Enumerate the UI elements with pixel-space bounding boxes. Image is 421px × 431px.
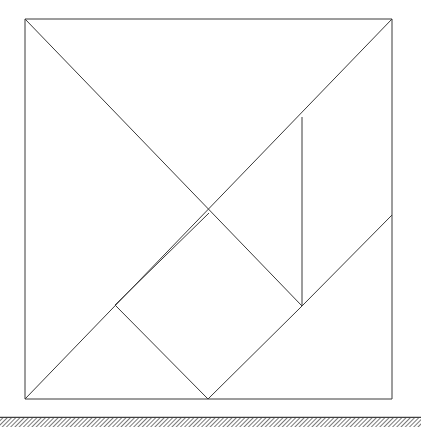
ground-support: [0, 418, 421, 428]
ground-hatching: [0, 418, 421, 427]
figure-background: [0, 0, 421, 431]
geometric-figure-canvas: Tangram dissection of a square resting o…: [0, 0, 421, 431]
